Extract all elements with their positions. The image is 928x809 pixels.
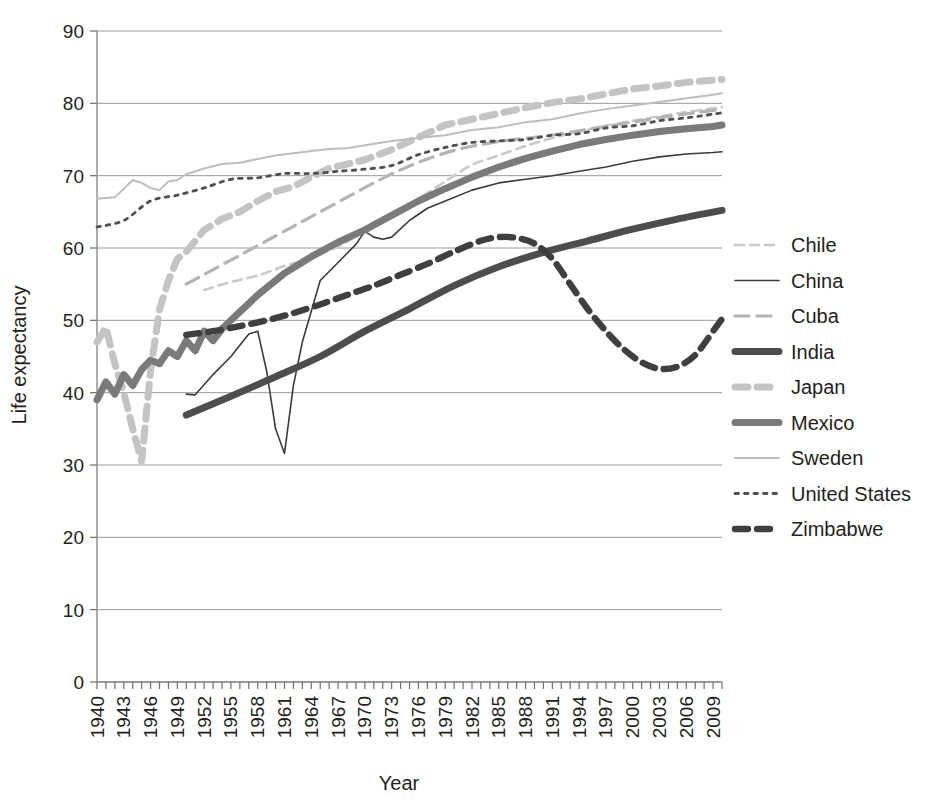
ytick-label-80: 80 <box>63 93 84 114</box>
legend-label-zimbabwe[interactable]: Zimbabwe <box>791 518 883 540</box>
ytick-label-90: 90 <box>63 21 84 42</box>
ytick-label-0: 0 <box>73 672 84 693</box>
xtick-label-1952: 1952 <box>194 696 215 738</box>
ytick-label-30: 30 <box>63 455 84 476</box>
legend-label-mexico[interactable]: Mexico <box>791 412 854 434</box>
xtick-label-1967: 1967 <box>328 696 349 738</box>
ytick-label-10: 10 <box>63 600 84 621</box>
legend-label-sweden[interactable]: Sweden <box>791 447 863 469</box>
series-line-zimbabwe <box>186 237 722 369</box>
x-axis-title: Year <box>379 772 420 794</box>
series-line-united-states <box>97 113 722 227</box>
legend-label-cuba[interactable]: Cuba <box>791 305 840 327</box>
ytick-label-20: 20 <box>63 527 84 548</box>
ytick-label-40: 40 <box>63 383 84 404</box>
xtick-label-1979: 1979 <box>435 696 456 738</box>
xtick-label-2006: 2006 <box>676 696 697 738</box>
xtick-label-1973: 1973 <box>381 696 402 738</box>
xtick-label-1985: 1985 <box>488 696 509 738</box>
chart-canvas: 0102030405060708090194019431946194919521… <box>0 0 928 809</box>
xtick-label-1982: 1982 <box>462 696 483 738</box>
xtick-label-1949: 1949 <box>167 696 188 738</box>
series-line-sweden <box>97 93 722 199</box>
series-group <box>97 79 722 461</box>
x-ticks: 1940194319461949195219551958196119641967… <box>87 682 724 738</box>
xtick-label-2000: 2000 <box>622 696 643 738</box>
xtick-label-1946: 1946 <box>140 696 161 738</box>
xtick-label-1940: 1940 <box>87 696 108 738</box>
xtick-label-1943: 1943 <box>113 696 134 738</box>
xtick-label-1955: 1955 <box>220 696 241 738</box>
xtick-label-1976: 1976 <box>408 696 429 738</box>
legend-label-united-states[interactable]: United States <box>791 483 911 505</box>
ytick-label-70: 70 <box>63 166 84 187</box>
life-expectancy-chart: 0102030405060708090194019431946194919521… <box>0 0 928 809</box>
legend: ChileChinaCubaIndiaJapanMexicoSwedenUnit… <box>735 234 911 540</box>
xtick-label-1964: 1964 <box>301 696 322 739</box>
legend-label-chile[interactable]: Chile <box>791 234 837 256</box>
xtick-label-1988: 1988 <box>515 696 536 738</box>
xtick-label-1958: 1958 <box>247 696 268 738</box>
xtick-label-1961: 1961 <box>274 696 295 738</box>
xtick-label-1991: 1991 <box>542 696 563 738</box>
xtick-label-2003: 2003 <box>649 696 670 738</box>
legend-label-india[interactable]: India <box>791 341 835 363</box>
xtick-label-2009: 2009 <box>703 696 724 738</box>
legend-label-china[interactable]: China <box>791 270 844 292</box>
xtick-label-1994: 1994 <box>569 696 590 739</box>
legend-label-japan[interactable]: Japan <box>791 376 846 398</box>
ytick-label-50: 50 <box>63 310 84 331</box>
xtick-label-1997: 1997 <box>595 696 616 738</box>
ytick-label-60: 60 <box>63 238 84 259</box>
y-axis-title: Life expectancy <box>8 286 30 425</box>
xtick-label-1970: 1970 <box>354 696 375 738</box>
